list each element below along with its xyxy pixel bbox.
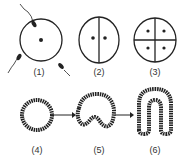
- stage-label: (2): [84, 67, 114, 77]
- stage-label: (5): [84, 145, 114, 155]
- stage-2-two-cell: [79, 17, 119, 63]
- arrow-icon: [130, 112, 134, 118]
- stage-6-gastrula: [139, 89, 171, 134]
- stage-label: (6): [140, 145, 170, 155]
- stage-label: (1): [24, 67, 54, 77]
- stage-label: (4): [22, 145, 52, 155]
- stage-3-four-cell: [134, 18, 176, 62]
- stage-5-early-gastrula: [78, 94, 114, 126]
- stage-label: (3): [140, 67, 170, 77]
- stage-1-fertilization: [8, 4, 70, 76]
- arrow-icon: [72, 112, 76, 118]
- embryo-development-diagram: [0, 0, 185, 162]
- stage-4-blastula: [22, 100, 52, 130]
